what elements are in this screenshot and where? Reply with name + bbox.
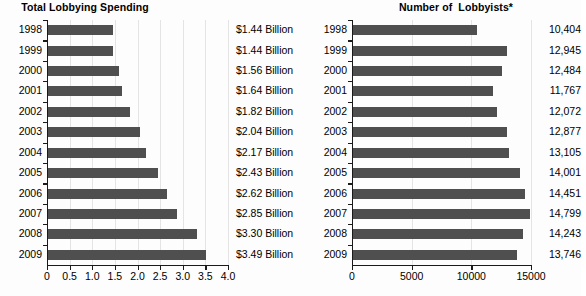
y-axis-category-label-lobbyists: 2001 (303, 85, 347, 96)
y-axis-category-label-spending: 2001 (0, 85, 42, 96)
y-axis-category-label-spending: 2007 (0, 208, 42, 219)
chart-title-spending: Total Lobbying Spending (0, 1, 230, 13)
y-axis-tick (348, 143, 352, 144)
y-axis-tick (348, 40, 352, 41)
bar-spending-2009 (48, 250, 206, 260)
y-axis-tick (348, 204, 352, 205)
bar-spending-1999 (48, 46, 113, 56)
y-axis-category-label-lobbyists: 1998 (303, 24, 347, 35)
bar-value-label-lobbyists-2002: 12,072 (539, 106, 581, 117)
bar-value-label-spending-2005: $2.43 Billion (236, 167, 290, 178)
y-axis-tick (43, 61, 47, 62)
y-axis-tick (43, 20, 47, 21)
y-axis-tick (348, 20, 352, 21)
y-axis-line-lobbyists (352, 20, 353, 265)
y-axis-category-label-spending: 2005 (0, 167, 42, 178)
bar-value-label-spending-2009: $3.49 Billion (236, 249, 290, 260)
bar-value-label-spending-2008: $3.30 Billion (236, 228, 290, 239)
bar-lobbyists-1999 (353, 46, 507, 56)
bar-spending-2002 (48, 107, 130, 117)
bar-lobbyists-2005 (353, 168, 520, 178)
y-axis-category-label-lobbyists: 2002 (303, 106, 347, 117)
bar-value-label-lobbyists-2001: 11,767 (539, 85, 581, 96)
gridline (412, 20, 413, 265)
x-axis-tick-label-lobbyists: 15000 (514, 270, 548, 282)
y-axis-category-label-spending: 2006 (0, 188, 42, 199)
gridline (228, 20, 229, 265)
y-axis-tick (43, 81, 47, 82)
bar-lobbyists-2004 (353, 148, 509, 158)
bar-value-label-spending-2000: $1.56 Billion (236, 65, 290, 76)
gridline (205, 20, 206, 265)
y-axis-tick (348, 102, 352, 103)
gridline (183, 20, 184, 265)
bar-spending-2001 (48, 86, 122, 96)
bar-value-label-lobbyists-1999: 12,945 (539, 45, 581, 56)
bar-value-label-lobbyists-2004: 13,105 (539, 147, 581, 158)
bar-spending-1998 (48, 25, 113, 35)
bar-value-label-spending-2002: $1.82 Billion (236, 106, 290, 117)
bar-value-label-lobbyists-2009: 13,746 (539, 249, 581, 260)
y-axis-tick (43, 224, 47, 225)
y-axis-line-spending (47, 20, 48, 265)
gridline (115, 20, 116, 265)
y-axis-tick (348, 81, 352, 82)
gridline (160, 20, 161, 265)
bar-value-label-lobbyists-2006: 14,451 (539, 188, 581, 199)
gridline (92, 20, 93, 265)
bar-spending-2000 (48, 66, 119, 76)
gridline (138, 20, 139, 265)
bar-value-label-spending-2007: $2.85 Billion (236, 208, 290, 219)
y-axis-category-label-lobbyists: 2007 (303, 208, 347, 219)
y-axis-category-label-spending: 2003 (0, 126, 42, 137)
bar-value-label-lobbyists-2008: 14,243 (539, 228, 581, 239)
y-axis-category-label-lobbyists: 2000 (303, 65, 347, 76)
y-axis-tick (348, 183, 352, 184)
y-axis-category-label-spending: 2008 (0, 228, 42, 239)
y-axis-category-label-spending: 2009 (0, 249, 42, 260)
y-axis-tick (348, 245, 352, 246)
bar-lobbyists-2001 (353, 86, 493, 96)
y-axis-category-label-spending: 2000 (0, 65, 42, 76)
bar-spending-2005 (48, 168, 158, 178)
y-axis-tick (43, 163, 47, 164)
y-axis-tick (43, 183, 47, 184)
y-axis-tick (43, 245, 47, 246)
bar-spending-2004 (48, 148, 146, 158)
gridline (70, 20, 71, 265)
bar-value-label-spending-2003: $2.04 Billion (236, 126, 290, 137)
y-axis-tick (348, 224, 352, 225)
y-axis-tick (348, 122, 352, 123)
bar-lobbyists-2007 (353, 209, 530, 219)
x-axis-tick-label-spending: 4.0 (211, 270, 245, 282)
bar-value-label-spending-2004: $2.17 Billion (236, 147, 290, 158)
bar-lobbyists-2002 (353, 107, 497, 117)
y-axis-tick (43, 204, 47, 205)
y-axis-category-label-spending: 2002 (0, 106, 42, 117)
bar-lobbyists-2006 (353, 189, 525, 199)
plot-area-lobbyists (352, 20, 531, 265)
bar-value-label-lobbyists-2007: 14,799 (539, 208, 581, 219)
bar-spending-2006 (48, 189, 167, 199)
bar-value-label-lobbyists-1998: 10,404 (539, 24, 581, 35)
bar-spending-2003 (48, 127, 140, 137)
bar-value-label-lobbyists-2005: 14,001 (539, 167, 581, 178)
y-axis-category-label-spending: 1998 (0, 24, 42, 35)
y-axis-tick (43, 40, 47, 41)
chart-panel-spending: Total Lobbying Spending 00.51.01.52.02.5… (0, 0, 290, 296)
x-axis-line-lobbyists (352, 265, 531, 266)
x-axis-tick-label-lobbyists: 5000 (395, 270, 429, 282)
bar-value-label-lobbyists-2000: 12,484 (539, 65, 581, 76)
bar-value-label-lobbyists-2003: 12,877 (539, 126, 581, 137)
bar-lobbyists-2000 (353, 66, 502, 76)
bar-value-label-spending-2006: $2.62 Billion (236, 188, 290, 199)
y-axis-tick (43, 143, 47, 144)
x-axis-tick-label-lobbyists: 0 (335, 270, 369, 282)
bar-value-label-spending-1998: $1.44 Billion (236, 24, 290, 35)
y-axis-category-label-lobbyists: 1999 (303, 45, 347, 56)
y-axis-category-label-spending: 2004 (0, 147, 42, 158)
bar-lobbyists-2008 (353, 229, 523, 239)
y-axis-category-label-lobbyists: 2003 (303, 126, 347, 137)
y-axis-tick (348, 163, 352, 164)
